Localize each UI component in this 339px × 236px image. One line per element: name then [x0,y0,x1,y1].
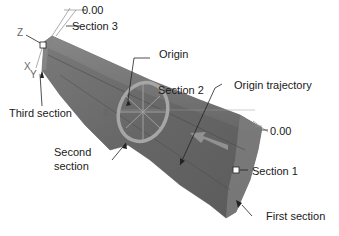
origin-trajectory-label: Origin trajectory [234,79,312,91]
origin-label: Origin [159,48,188,60]
section3-value-label: 0.00 [82,4,103,16]
diagram-canvas: 0.00 Section 3 Z X Y Origin Section 2 Or… [0,0,339,236]
second-section-label-line2: section [54,160,89,172]
third-section-label: Third section [9,107,72,119]
first-section-label: First section [266,210,325,222]
second-section-label-line1: Second [54,146,91,158]
section1-marker[interactable] [233,167,239,173]
section2-label: Section 2 [158,84,204,96]
y-axis-label-left: Y [30,70,37,80]
section3-label: Section 3 [72,20,118,32]
section1-label: Section 1 [252,165,298,177]
z-axis-label: Z [17,28,23,38]
section3-marker[interactable] [40,42,46,48]
section1-value-label: 0.00 [270,125,291,137]
x-axis-label-mid: X [103,108,110,118]
